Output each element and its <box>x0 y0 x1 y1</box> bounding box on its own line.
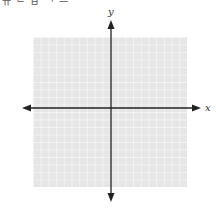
coordinate-plane: x y <box>0 0 220 218</box>
y-axis-label: y <box>107 6 114 17</box>
y-axis-bottom-arrow-icon <box>108 193 115 202</box>
x-axis-label: x <box>205 102 211 113</box>
x-axis-right-arrow-icon <box>192 105 201 112</box>
grid-area <box>33 37 187 187</box>
y-axis-top-arrow-icon <box>108 20 115 29</box>
x-axis-left-arrow-icon <box>22 105 31 112</box>
